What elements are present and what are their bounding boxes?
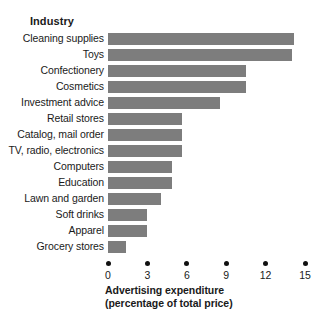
chart-row: Lawn and garden bbox=[0, 193, 321, 205]
axis-tick-mark bbox=[303, 261, 308, 266]
bar bbox=[108, 241, 126, 253]
chart-row: Cleaning supplies bbox=[0, 33, 321, 45]
value-axis-title-line1: Advertising expenditure bbox=[105, 284, 321, 297]
bar bbox=[108, 129, 182, 141]
chart-row: TV, radio, electronics bbox=[0, 145, 321, 157]
category-label: Confectionery bbox=[0, 64, 104, 77]
bar bbox=[108, 97, 220, 109]
bar bbox=[108, 81, 246, 93]
value-axis-title: Advertising expenditure (percentage of t… bbox=[105, 284, 321, 310]
bar bbox=[108, 209, 147, 221]
category-label: Computers bbox=[0, 160, 104, 173]
chart-row: Computers bbox=[0, 161, 321, 173]
axis-tick-label: 15 bbox=[290, 269, 320, 281]
category-label: Catalog, mail order bbox=[0, 128, 104, 141]
axis-tick-label: 6 bbox=[172, 269, 202, 281]
bar bbox=[108, 145, 182, 157]
chart-row: Soft drinks bbox=[0, 209, 321, 221]
chart-row: Confectionery bbox=[0, 65, 321, 77]
chart-row: Grocery stores bbox=[0, 241, 321, 253]
bar bbox=[108, 49, 292, 61]
bar bbox=[108, 193, 161, 205]
plot-area: Cleaning suppliesToysConfectioneryCosmet… bbox=[0, 33, 321, 257]
category-label: TV, radio, electronics bbox=[0, 144, 104, 157]
category-label: Education bbox=[0, 176, 104, 189]
chart-row: Toys bbox=[0, 49, 321, 61]
axis-tick-mark bbox=[224, 261, 229, 266]
axis-tick-mark bbox=[106, 261, 111, 266]
value-axis-title-line2: (percentage of total price) bbox=[105, 297, 321, 310]
bar bbox=[108, 161, 172, 173]
chart-row: Catalog, mail order bbox=[0, 129, 321, 141]
bar bbox=[108, 65, 246, 77]
axis-tick-mark bbox=[263, 261, 268, 266]
axis-tick-mark bbox=[184, 261, 189, 266]
axis-tick-label: 0 bbox=[93, 269, 123, 281]
category-label: Lawn and garden bbox=[0, 192, 104, 205]
chart-row: Education bbox=[0, 177, 321, 189]
bar bbox=[108, 225, 147, 237]
category-label: Cosmetics bbox=[0, 80, 104, 93]
category-label: Grocery stores bbox=[0, 240, 104, 253]
axis-tick-label: 9 bbox=[211, 269, 241, 281]
category-axis-title: Industry bbox=[0, 15, 104, 27]
bar bbox=[108, 33, 294, 45]
value-axis: Advertising expenditure (percentage of t… bbox=[0, 257, 321, 316]
category-label: Investment advice bbox=[0, 96, 104, 109]
category-label: Soft drinks bbox=[0, 208, 104, 221]
axis-tick-label: 12 bbox=[251, 269, 281, 281]
bar bbox=[108, 177, 172, 189]
axis-tick-mark bbox=[145, 261, 150, 266]
category-label: Retail stores bbox=[0, 112, 104, 125]
axis-tick-label: 3 bbox=[132, 269, 162, 281]
chart-row: Cosmetics bbox=[0, 81, 321, 93]
bar bbox=[108, 113, 182, 125]
chart-row: Investment advice bbox=[0, 97, 321, 109]
category-label: Apparel bbox=[0, 224, 104, 237]
chart-row: Apparel bbox=[0, 225, 321, 237]
bar-chart: Industry Cleaning suppliesToysConfection… bbox=[0, 0, 321, 316]
category-label: Toys bbox=[0, 48, 104, 61]
category-label: Cleaning supplies bbox=[0, 32, 104, 45]
chart-row: Retail stores bbox=[0, 113, 321, 125]
